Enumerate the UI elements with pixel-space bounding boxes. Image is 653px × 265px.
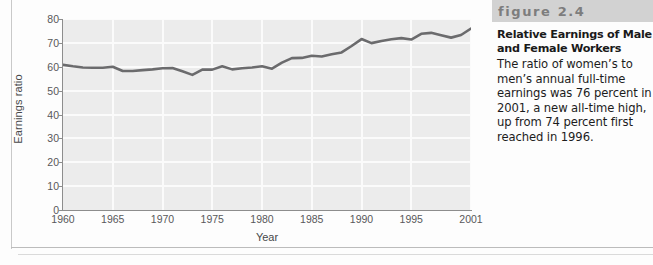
figure-number-band: figure 2.4	[492, 0, 653, 22]
x-tick-label-1965: 1965	[88, 214, 138, 225]
x-tick-label-1995: 1995	[386, 214, 436, 225]
x-tick-label-1960: 1960	[38, 214, 88, 225]
x-tick-label-1970: 1970	[138, 214, 188, 225]
x-tick-label-1980: 1980	[237, 214, 287, 225]
x-tick-label-1985: 1985	[287, 214, 337, 225]
y-axis-title: Earnings ratio	[12, 49, 24, 169]
x-tick-label-1990: 1990	[337, 214, 387, 225]
line-chart: 80706050403020100 1960196519701975198019…	[0, 0, 480, 248]
figure-number-label: figure 2.4	[498, 4, 585, 19]
x-tick-label-1975: 1975	[187, 214, 237, 225]
x-tick-label-2001: 2001	[446, 214, 496, 225]
figure-page: 80706050403020100 1960196519701975198019…	[0, 0, 653, 265]
x-axis-title: Year	[63, 231, 471, 243]
scan-edge-bottom-secondary	[18, 254, 653, 255]
figure-caption-body: The ratio of women’s to men’s annual ful…	[497, 57, 653, 145]
x-axis-tick-labels: 196019651970197519801985199019952001	[0, 0, 480, 248]
figure-caption-title: Relative Earnings of Male and Female Wor…	[497, 28, 653, 55]
figure-caption-panel: figure 2.4 Relative Earnings of Male and…	[492, 0, 653, 248]
